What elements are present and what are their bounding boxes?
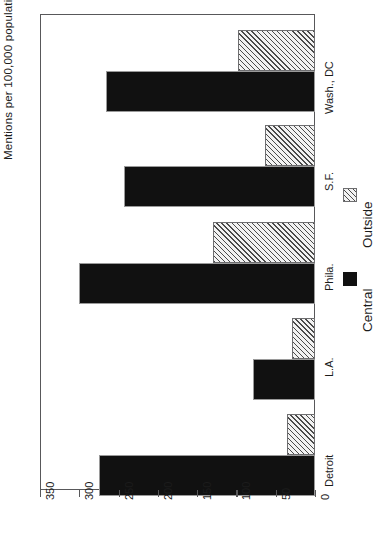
tick-label-50: 50 <box>280 460 294 500</box>
legend-label-outside: Outside <box>360 168 376 248</box>
bar-central-wash-dc <box>106 71 315 112</box>
tick-label-150: 150 <box>201 460 215 500</box>
category-label-la: L.A. <box>323 287 337 377</box>
legend-swatch-central-icon <box>343 272 357 286</box>
bar-outside-sf <box>265 125 315 166</box>
legend: Outside Central <box>340 188 370 358</box>
legend-swatch-outside-icon <box>343 188 357 202</box>
legend-label-central: Central <box>360 252 376 332</box>
category-label-detroit: Detroit <box>323 397 337 487</box>
axis-ticks: 350 300 250 200 150 100 50 0 <box>40 490 315 500</box>
bar-outside-detroit <box>287 414 315 455</box>
tick-mark-200 <box>158 490 159 497</box>
tick-mark-0 <box>315 490 316 497</box>
category-label-phila: Phila. <box>323 201 337 291</box>
tick-mark-50 <box>276 490 277 497</box>
tick-label-300: 300 <box>83 460 97 500</box>
category-label-sf: S.F. <box>323 101 337 191</box>
bar-central-la <box>253 359 315 400</box>
tick-label-100: 100 <box>240 460 254 500</box>
axis-title: Mentions per 100,000 population, 1990 <box>2 0 22 160</box>
tick-mark-350 <box>40 490 41 497</box>
tick-label-200: 200 <box>162 460 176 500</box>
tick-mark-150 <box>197 490 198 497</box>
tick-mark-250 <box>119 490 120 497</box>
tick-mark-100 <box>236 490 237 497</box>
bar-outside-phila <box>213 222 315 263</box>
bar-outside-wash-dc <box>238 30 315 71</box>
tick-label-350: 350 <box>44 460 58 500</box>
bar-outside-la <box>292 318 315 359</box>
bar-central-sf <box>124 166 315 207</box>
tick-label-250: 250 <box>123 460 137 500</box>
bars-layer <box>40 14 315 490</box>
bar-central-phila <box>79 263 315 304</box>
tick-mark-300 <box>79 490 80 497</box>
